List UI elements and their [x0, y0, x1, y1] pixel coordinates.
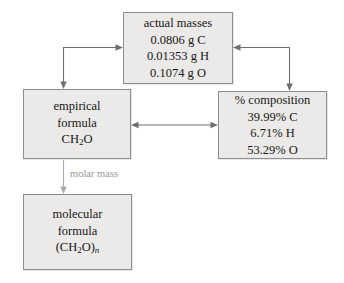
node-molecular-formula[interactable]: molecular formula (CH2O)n: [23, 194, 132, 270]
edge-label-molar-mass: molar mass: [70, 168, 118, 179]
node-percent-composition[interactable]: % composition 39.99% C 6.71% H 53.29% O: [218, 91, 327, 159]
node-actual-masses[interactable]: actual masses 0.0806 g C 0.01353 g H 0.1…: [123, 12, 233, 84]
molecular-formula-label-line1: molecular: [53, 206, 103, 223]
actual-masses-value-oxygen: 0.1074 g O: [150, 65, 206, 82]
empirical-formula-label-line2: formula: [57, 115, 97, 132]
percent-composition-heading: % composition: [235, 92, 310, 109]
edge-empirical-to-actual: [60, 44, 123, 89]
edge-empirical-percent: [131, 122, 218, 128]
diagram-canvas: actual masses 0.0806 g C 0.01353 g H 0.1…: [0, 0, 344, 283]
percent-composition-value-hydrogen: 6.71% H: [250, 125, 294, 142]
actual-masses-value-hydrogen: 0.01353 g H: [147, 48, 209, 65]
molecular-formula-label-line2: formula: [58, 223, 98, 240]
empirical-formula-label-line1: empirical: [53, 98, 100, 115]
edge-actual-to-percent: [233, 44, 293, 91]
empirical-formula-value: CH2O: [62, 131, 93, 149]
molecular-formula-value: (CH2O)n: [56, 239, 100, 257]
molecular-formula-close: O): [82, 240, 95, 254]
empirical-formula-tail: O: [83, 132, 92, 146]
molecular-formula-n-subscript: n: [95, 246, 100, 256]
actual-masses-heading: actual masses: [144, 15, 212, 32]
percent-composition-value-oxygen: 53.29% O: [247, 142, 298, 159]
empirical-formula-main: CH: [62, 132, 79, 146]
edge-empirical-to-molecular: [60, 160, 66, 194]
node-empirical-formula[interactable]: empirical formula CH2O: [23, 89, 131, 159]
molecular-formula-open: (CH: [56, 240, 78, 254]
percent-composition-value-carbon: 39.99% C: [248, 109, 298, 126]
actual-masses-value-carbon: 0.0806 g C: [150, 32, 205, 49]
